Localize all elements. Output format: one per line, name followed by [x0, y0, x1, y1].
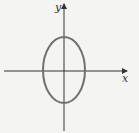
y-axis-label: y	[54, 1, 62, 14]
x-axis-label: x	[122, 72, 129, 85]
diagram-canvas: y x	[0, 0, 139, 133]
ellipse-diagram: y x	[0, 0, 139, 133]
